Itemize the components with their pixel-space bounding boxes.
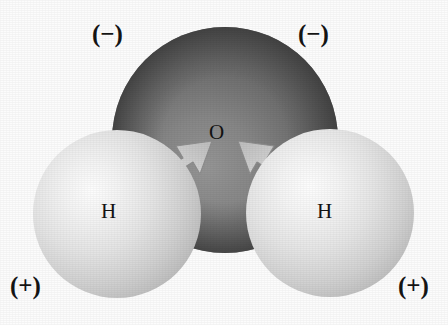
molecule-canvas <box>0 0 448 325</box>
atom-label-hydrogen-left: H <box>101 199 116 224</box>
charge-label-positive-left: (+) <box>10 272 41 300</box>
charge-label-negative-right: (−) <box>298 20 329 48</box>
hydrogen-sphere-left <box>33 130 201 298</box>
charge-label-negative-left: (−) <box>92 20 123 48</box>
charge-label-positive-right: (+) <box>398 272 429 300</box>
atom-label-oxygen: O <box>209 120 224 145</box>
atom-label-hydrogen-right: H <box>317 199 332 224</box>
water-molecule-figure: (−) (−) (+) (+) O H H <box>0 0 448 325</box>
